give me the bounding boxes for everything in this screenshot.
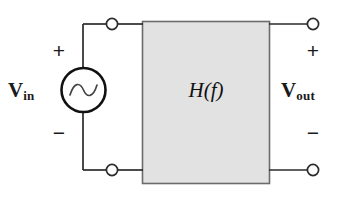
transfer-function-label: H(f) bbox=[142, 80, 270, 101]
input-voltage-symbol: V bbox=[8, 78, 23, 102]
output-plus-sign: + bbox=[305, 40, 321, 61]
output-minus-sign: − bbox=[305, 122, 321, 143]
transfer-function-block bbox=[143, 22, 270, 184]
input-plus-sign: + bbox=[51, 40, 67, 61]
output-voltage-subscript: out bbox=[296, 88, 315, 103]
circuit-diagram-canvas: + − Vin H(f) + − Vout bbox=[0, 0, 349, 198]
input-voltage-label: Vin bbox=[8, 80, 35, 102]
terminal-output-top bbox=[307, 18, 318, 29]
output-voltage-symbol: V bbox=[281, 78, 296, 102]
output-voltage-label: Vout bbox=[281, 80, 315, 102]
input-voltage-subscript: in bbox=[23, 88, 34, 103]
terminal-output-bottom bbox=[307, 164, 318, 175]
terminal-input-top bbox=[106, 18, 117, 29]
terminal-input-bottom bbox=[106, 164, 117, 175]
input-minus-sign: − bbox=[51, 122, 67, 143]
